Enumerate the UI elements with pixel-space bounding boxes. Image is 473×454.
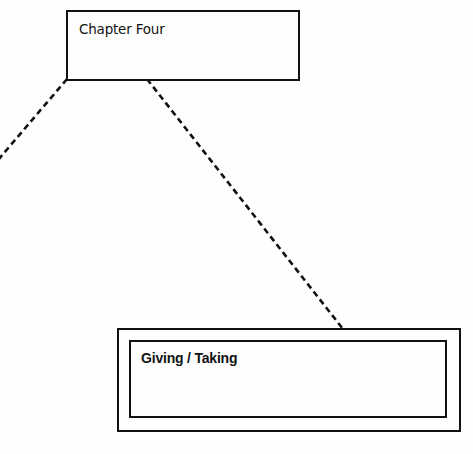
dashed-edge-left [0,79,67,160]
node-inner-frame: Giving / Taking [129,340,447,418]
node-label: Giving / Taking [141,350,237,366]
dashed-edge-chapter-to-giving [147,79,343,329]
node-label: Chapter Four [79,21,165,37]
node-giving-taking[interactable]: Giving / Taking [117,328,461,432]
node-chapter-four[interactable]: Chapter Four [66,10,300,81]
